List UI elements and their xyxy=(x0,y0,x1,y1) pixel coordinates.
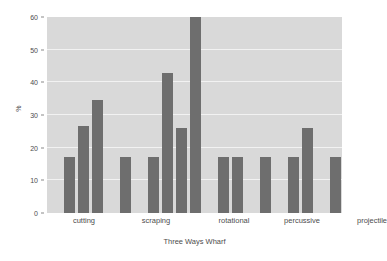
bar xyxy=(232,157,243,213)
bar xyxy=(260,157,271,213)
y-axis-tick-mark xyxy=(41,180,44,181)
y-axis-tick-mark xyxy=(41,115,44,116)
x-axis-tick-label-cutting: cutting xyxy=(73,216,95,225)
y-axis-tick-label: 30 xyxy=(30,112,38,119)
bar xyxy=(288,157,299,213)
bar xyxy=(92,100,103,213)
bar xyxy=(176,128,187,213)
bar xyxy=(64,157,75,213)
bar xyxy=(218,157,229,213)
y-axis-tick-mark xyxy=(41,49,44,50)
y-axis-tick-label: 40 xyxy=(30,79,38,86)
bar xyxy=(148,157,159,213)
x-axis-tick-label-percussive: percussive xyxy=(284,216,320,225)
bar xyxy=(162,73,173,213)
bar xyxy=(330,157,341,213)
y-axis-tick-label: 50 xyxy=(30,46,38,53)
y-axis-tick-label: 0 xyxy=(34,210,38,217)
bar xyxy=(120,157,131,213)
x-axis-tick-label-rotational: rotational xyxy=(219,216,250,225)
y-axis-tick-mark xyxy=(41,17,44,18)
x-axis-tick-labels: cuttingscrapingrotationalpercussiveproje… xyxy=(47,216,342,230)
bar xyxy=(190,17,201,213)
x-axis-tick-label-scraping: scraping xyxy=(142,216,170,225)
y-axis-tick-mark xyxy=(41,147,44,148)
y-axis-tick-label: 20 xyxy=(30,144,38,151)
y-axis-tick-labels: 0102030405060 xyxy=(0,0,44,261)
y-axis-tick-mark xyxy=(41,82,44,83)
bar xyxy=(78,126,89,213)
x-axis-title: Three Ways Wharf xyxy=(47,237,342,246)
y-axis-tick-label: 60 xyxy=(30,14,38,21)
plot-area xyxy=(47,17,342,213)
y-axis-tick-mark xyxy=(41,213,44,214)
bar xyxy=(302,128,313,213)
x-axis-tick-label-projectile: projectile xyxy=(357,216,387,225)
y-axis-tick-label: 10 xyxy=(30,177,38,184)
